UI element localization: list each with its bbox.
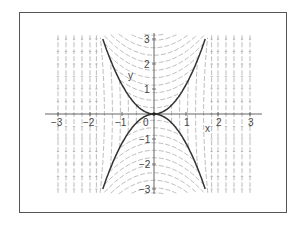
x-tick-label: 1 xyxy=(184,117,190,128)
direction-field-plot: −3−2−10123−3−2−1123 y x xyxy=(0,0,305,228)
origin-label: 0 xyxy=(143,117,149,128)
y-tick-label: −1 xyxy=(139,134,151,145)
x-tick-label: −2 xyxy=(83,117,95,128)
y-tick-label: 1 xyxy=(144,84,150,95)
y-tick-label: 2 xyxy=(144,59,150,70)
x-tick-label: 3 xyxy=(248,117,254,128)
field-line xyxy=(204,38,208,193)
y-axis-label: y xyxy=(128,70,133,81)
y-tick-label: 3 xyxy=(144,34,150,45)
x-tick-label: 2 xyxy=(216,117,222,128)
x-tick-label: −3 xyxy=(51,117,63,128)
field-line xyxy=(100,38,104,193)
x-axis-label: x xyxy=(205,123,210,134)
y-tick-label: −3 xyxy=(139,184,151,195)
x-tick-label: −1 xyxy=(115,117,127,128)
origin-point xyxy=(152,112,156,116)
y-tick-label: −2 xyxy=(139,159,151,170)
